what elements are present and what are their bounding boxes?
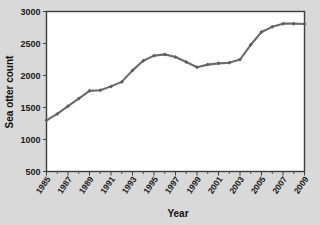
y-tick-label: 1500 — [20, 103, 40, 113]
x-axis-title: Year — [167, 208, 188, 219]
y-tick-label: 1000 — [20, 135, 40, 145]
sea-otter-count-line-chart: 50010001500200025003000 1985198719891991… — [0, 0, 320, 225]
y-tick-label: 3000 — [20, 7, 40, 17]
y-axis-title: Sea otter count — [4, 55, 15, 128]
chart-figure: 50010001500200025003000 1985198719891991… — [0, 0, 320, 225]
y-tick-label: 500 — [25, 167, 40, 177]
plot-frame — [47, 12, 305, 172]
y-tick-label: 2500 — [20, 39, 40, 49]
y-tick-label: 2000 — [20, 71, 40, 81]
